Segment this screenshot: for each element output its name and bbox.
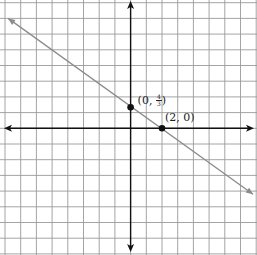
point-label-x-intercept: (2, 0) — [165, 112, 195, 123]
point-label-y-intercept: (0, 43) — [138, 94, 166, 107]
axes — [4, 1, 254, 252]
grid-lines — [0, 0, 257, 255]
coordinate-graph — [0, 0, 257, 255]
